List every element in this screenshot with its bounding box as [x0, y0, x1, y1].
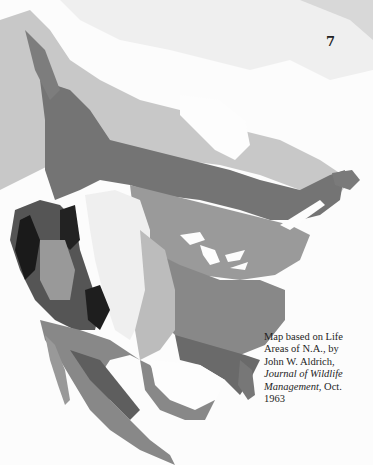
map-source-caption: Map based on Life Areas of N.A., by John… — [264, 331, 373, 405]
caption-journal: Journal of Wildlife — [264, 368, 373, 380]
caption-date: , Oct. — [319, 381, 342, 392]
caption-line: Management, Oct. — [264, 381, 373, 393]
caption-year: 1963 — [264, 393, 373, 405]
caption-journal-cont: Management — [264, 381, 319, 392]
caption-line: Map based on Life — [264, 331, 373, 343]
caption-line: John W. Aldrich, — [264, 356, 373, 368]
caption-line: Areas of N.A., by — [264, 343, 373, 355]
page-number: 7 — [326, 34, 335, 49]
book-page: 7 Map based on Life Areas of N.A., by Jo… — [0, 0, 373, 465]
